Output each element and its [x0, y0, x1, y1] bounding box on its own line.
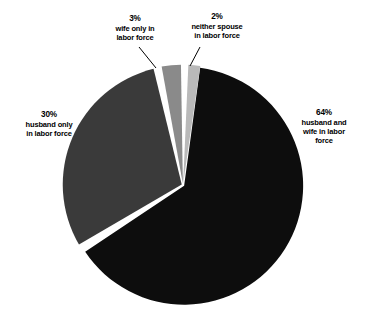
- pie-label-husband-and-wife-line1: husband and: [288, 118, 360, 127]
- pie-label-neither-spouse-line2: in labor force: [178, 31, 256, 40]
- pie-label-neither-spouse-line1: neither spouse: [178, 22, 256, 31]
- pie-label-wife-only-percent: 3%: [99, 14, 171, 24]
- pie-label-husband-only-percent: 30%: [8, 110, 90, 120]
- pie-chart: 3% wife only in labor force 2% neither s…: [0, 0, 368, 325]
- pie-label-neither-spouse: 2% neither spouse in labor force: [178, 12, 256, 40]
- pie-label-husband-only-line2: in labor force: [8, 129, 90, 138]
- pie-label-husband-and-wife-line2: wife in labor: [288, 127, 360, 136]
- pie-label-wife-only: 3% wife only in labor force: [99, 14, 171, 42]
- pie-label-wife-only-line2: labor force: [99, 33, 171, 42]
- pie-label-husband-only-line1: husband only: [8, 120, 90, 129]
- pie-label-neither-spouse-percent: 2%: [178, 12, 256, 22]
- pie-label-husband-and-wife-percent: 64%: [288, 108, 360, 118]
- pie-label-wife-only-line1: wife only in: [99, 24, 171, 33]
- pie-label-husband-and-wife-line3: force: [288, 136, 360, 145]
- pie-label-husband-and-wife: 64% husband and wife in labor force: [288, 108, 360, 146]
- pie-chart-graphic: [0, 0, 368, 325]
- pie-label-husband-only: 30% husband only in labor force: [8, 110, 90, 138]
